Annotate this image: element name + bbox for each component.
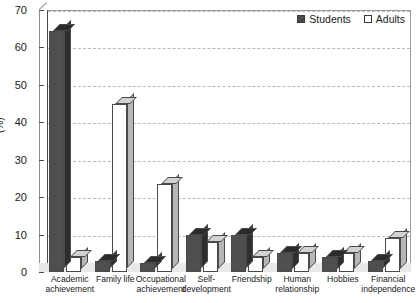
plot-area xyxy=(47,10,411,272)
bar-side-face xyxy=(127,93,134,268)
gridline xyxy=(48,236,410,237)
legend-swatch-adults-icon xyxy=(364,15,372,23)
gridline xyxy=(48,123,410,124)
legend-item-adults: Adults xyxy=(364,13,405,25)
legend-swatch-students-icon xyxy=(297,15,305,23)
y-tick-label: 60 xyxy=(1,42,27,53)
y-tick-mark xyxy=(39,197,44,198)
bar-front-face xyxy=(186,235,201,272)
gridline xyxy=(48,48,410,49)
bar-adults xyxy=(112,104,127,272)
y-tick-mark xyxy=(39,272,44,273)
y-tick-label: 30 xyxy=(1,155,27,166)
bar-students xyxy=(231,235,246,272)
x-category-label: Financialindependence xyxy=(360,275,418,294)
y-tick-mark xyxy=(39,85,44,86)
legend-item-students: Students xyxy=(297,13,350,25)
bar-chart: 010203040506070 (%) AcademicachievementF… xyxy=(0,0,419,303)
bar-front-face xyxy=(140,263,155,272)
bar-students xyxy=(95,261,110,272)
x-category-label-line: independence xyxy=(360,285,418,295)
y-tick-label: 70 xyxy=(1,5,27,16)
bar-students xyxy=(368,261,383,272)
y-axis-title: (%) xyxy=(0,117,5,133)
gridline xyxy=(48,161,410,162)
y-tick-label: 0 xyxy=(1,267,27,278)
y-tick-label: 10 xyxy=(1,230,27,241)
bar-front-face xyxy=(368,261,383,272)
bar-side-face xyxy=(172,174,179,269)
bar-students xyxy=(322,257,337,272)
x-category-label-line: development xyxy=(178,285,236,295)
y-tick-mark xyxy=(39,160,44,161)
x-category-label-line: achievement xyxy=(41,285,99,295)
y-tick-mark xyxy=(39,10,44,11)
y-tick-mark xyxy=(39,235,44,236)
y-tick-label: 20 xyxy=(1,192,27,203)
legend-label-students: Students xyxy=(309,13,350,25)
y-tick-mark xyxy=(39,122,44,123)
bar-side-face xyxy=(64,20,71,268)
bar-front-face xyxy=(277,253,292,272)
gridline xyxy=(48,11,410,12)
bar-students xyxy=(277,253,292,272)
gridline xyxy=(48,198,410,199)
bar-front-face xyxy=(49,31,64,272)
bar-front-face xyxy=(231,235,246,272)
chart-legend: Students Adults xyxy=(297,13,405,25)
bar-students xyxy=(140,263,155,272)
gridline xyxy=(48,86,410,87)
y-tick-label: 50 xyxy=(1,80,27,91)
bar-students xyxy=(186,235,201,272)
y-tick-mark xyxy=(39,47,44,48)
bar-students xyxy=(49,31,64,272)
bar-front-face xyxy=(322,257,337,272)
bar-front-face xyxy=(95,261,110,272)
x-category-label-line: relationship xyxy=(269,285,327,295)
legend-label-adults: Adults xyxy=(376,13,405,25)
bar-front-face xyxy=(112,104,127,272)
